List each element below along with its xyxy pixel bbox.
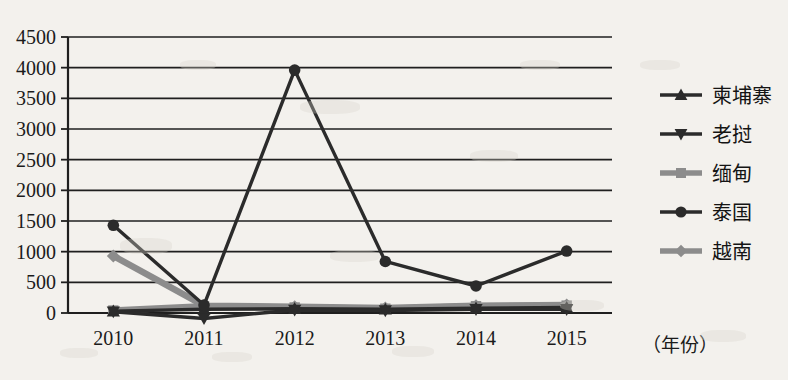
series-line xyxy=(113,70,566,305)
legend-item-柬埔寨[interactable]: 柬埔寨 xyxy=(660,84,772,108)
y-tick-label: 3000 xyxy=(16,118,56,140)
data-point-marker xyxy=(289,64,301,76)
data-point-marker xyxy=(675,245,688,258)
x-tick-label: 2010 xyxy=(93,327,133,349)
legend-label: 老挝 xyxy=(712,123,752,147)
legend-label: 缅甸 xyxy=(712,162,752,186)
legend-label: 越南 xyxy=(712,240,752,264)
x-tick-label: 2011 xyxy=(184,327,223,349)
y-axis-tick-labels: 050010001500200025003000350040004500 xyxy=(16,26,68,324)
x-axis-title: （年份） xyxy=(642,334,718,356)
y-tick-label: 0 xyxy=(46,302,56,324)
series-泰国 xyxy=(108,64,573,311)
legend-item-越南[interactable]: 越南 xyxy=(660,240,752,264)
y-tick-label: 500 xyxy=(26,271,56,293)
data-point-marker xyxy=(198,299,210,311)
y-tick-label: 1500 xyxy=(16,210,56,232)
line-chart: 050010001500200025003000350040004500 201… xyxy=(0,0,788,380)
x-tick-label: 2012 xyxy=(275,327,315,349)
legend-item-老挝[interactable]: 老挝 xyxy=(660,123,752,147)
data-point-marker xyxy=(675,206,686,217)
gridlines xyxy=(68,37,612,282)
data-point-marker xyxy=(470,280,482,292)
y-tick-label: 4500 xyxy=(16,26,56,48)
y-tick-label: 1000 xyxy=(16,241,56,263)
legend-label: 柬埔寨 xyxy=(712,84,772,108)
legend-item-泰国[interactable]: 泰国 xyxy=(660,201,752,225)
data-point-marker xyxy=(676,168,686,178)
chart-canvas: 050010001500200025003000350040004500 201… xyxy=(0,0,788,380)
data-point-marker xyxy=(108,219,120,231)
data-series xyxy=(107,64,574,325)
data-point-marker xyxy=(561,245,573,257)
y-tick-label: 3500 xyxy=(16,87,56,109)
y-tick-label: 2000 xyxy=(16,179,56,201)
y-tick-label: 4000 xyxy=(16,57,56,79)
x-tick-label: 2015 xyxy=(547,327,587,349)
data-point-marker xyxy=(380,256,392,268)
axis-lines xyxy=(68,37,612,313)
y-tick-label: 2500 xyxy=(16,149,56,171)
x-tick-label: 2014 xyxy=(456,327,496,349)
legend-label: 泰国 xyxy=(712,201,752,225)
chart-legend: 柬埔寨老挝缅甸泰国越南 xyxy=(660,84,772,264)
x-tick-label: 2013 xyxy=(365,327,405,349)
legend-item-缅甸[interactable]: 缅甸 xyxy=(660,162,752,186)
x-axis-tick-labels: 201020112012201320142015 xyxy=(93,327,586,349)
